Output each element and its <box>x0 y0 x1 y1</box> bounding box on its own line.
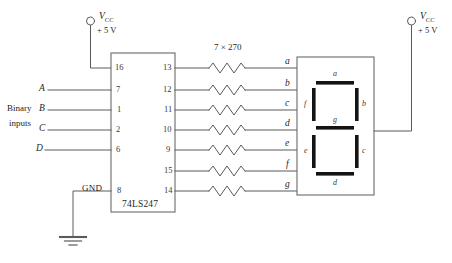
segment-e-bar <box>312 135 316 168</box>
display-segment-label-d: d <box>333 179 337 187</box>
segment-d-bar <box>316 172 354 176</box>
vcc-right-subscript: CC <box>426 16 435 23</box>
ic-part-number-label: 74LS247 <box>122 200 158 210</box>
resistor-a <box>209 63 245 73</box>
display-segment-label-c: c <box>362 147 366 155</box>
ic-pin-9: 9 <box>166 145 170 154</box>
vcc-left-label: VCC <box>99 12 113 23</box>
input-signal-label-a: A <box>39 84 45 94</box>
resistor-b <box>209 85 245 95</box>
wire-label-segment-a: a <box>285 57 290 67</box>
ic-pin-1: 1 <box>117 105 121 114</box>
wire-label-segment-g: g <box>285 180 290 190</box>
resistor-c <box>209 105 245 115</box>
display-segment-label-g: g <box>333 116 337 124</box>
vcc-left-subscript: CC <box>105 16 114 23</box>
ic-pin-11: 11 <box>164 105 172 114</box>
vcc-left-voltage: + 5 V <box>97 26 116 35</box>
ground-label: GND <box>82 184 102 193</box>
vcc-right-common-wire <box>374 26 412 132</box>
wire-label-segment-f: f <box>286 160 289 170</box>
vcc-right-voltage: + 5 V <box>418 26 437 35</box>
input-signal-label-c: C <box>39 124 45 134</box>
input-signal-label-d: D <box>36 144 43 154</box>
ic-pin-15: 15 <box>164 166 173 175</box>
resistor-bank-label: 7 × 270 <box>214 43 242 52</box>
ic-pin-12: 12 <box>163 85 172 94</box>
ic-pin-10: 10 <box>163 125 172 134</box>
wire-label-segment-b: b <box>285 79 290 89</box>
resistor-f <box>209 166 245 176</box>
circuit-diagram-canvas: VCC + 5 V VCC + 5 V Binary inputs A B C … <box>0 0 452 263</box>
vcc-right-label: VCC <box>420 12 434 23</box>
resistor-e <box>209 145 245 155</box>
display-segment-label-e: e <box>304 147 308 155</box>
ic-pin-13: 13 <box>163 63 172 72</box>
wire-ground <box>73 191 111 237</box>
wire-label-segment-e: e <box>285 139 289 149</box>
resistor-d <box>209 125 245 135</box>
ic-pin-8: 8 <box>117 186 121 195</box>
resistor-g <box>209 186 245 196</box>
input-signal-label-b: B <box>39 104 45 114</box>
segment-a-bar <box>316 81 354 85</box>
wire-label-segment-c: c <box>285 99 289 109</box>
segment-b-bar <box>355 88 359 121</box>
schematic-wiring <box>0 0 452 263</box>
vcc-left-terminal-circle <box>87 17 95 25</box>
ic-pin-2: 2 <box>116 125 120 134</box>
ic-pin-6: 6 <box>116 145 120 154</box>
display-segment-label-a: a <box>333 70 337 78</box>
segment-f-bar <box>312 88 316 121</box>
vcc-right-terminal-circle <box>408 17 416 25</box>
ic-pin-16: 16 <box>115 63 124 72</box>
binary-inputs-label-line1: Binary <box>7 104 32 113</box>
display-segment-label-b: b <box>362 100 366 108</box>
binary-inputs-label-line2: inputs <box>9 119 31 128</box>
ic-pin-14: 14 <box>164 186 173 195</box>
display-segment-label-f: f <box>304 100 306 108</box>
wire-label-segment-d: d <box>285 119 290 129</box>
segment-c-bar <box>355 135 359 168</box>
ic-pin-7: 7 <box>116 85 120 94</box>
segment-g-bar <box>316 126 354 130</box>
